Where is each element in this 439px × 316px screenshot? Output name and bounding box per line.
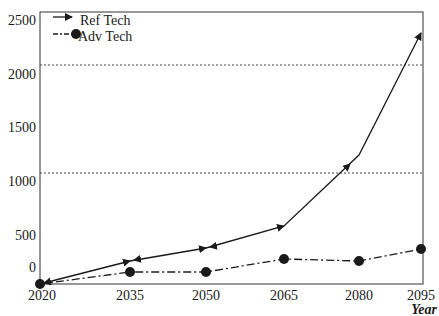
y-tick-500: 500: [15, 228, 36, 243]
legend: Ref Tech Adv Tech: [53, 13, 132, 44]
adv-point-2095: [416, 244, 426, 254]
series-adv-tech: [35, 244, 426, 289]
x-axis-label: Year: [411, 302, 437, 316]
legend-adv-tech-label: Adv Tech: [78, 29, 132, 44]
adv-point-2080: [354, 256, 364, 266]
x-tick-2080: 2080: [345, 288, 373, 303]
y-tick-2500: 2500: [8, 13, 36, 28]
adv-point-2065: [279, 254, 289, 264]
x-tick-2020: 2020: [28, 288, 56, 303]
x-tick-2050: 2050: [192, 288, 220, 303]
adv-point-2050: [201, 267, 211, 277]
y-tick-1000: 1000: [8, 174, 36, 189]
x-tick-2065: 2065: [270, 288, 298, 303]
y-tick-1500: 1500: [8, 120, 36, 135]
series-ref-tech: [40, 33, 421, 284]
legend-ref-tech-label: Ref Tech: [80, 13, 130, 28]
x-tick-2095: 2095: [407, 288, 435, 303]
y-tick-2000: 2000: [8, 67, 36, 82]
x-tick-2035: 2035: [116, 288, 144, 303]
plot-frame: [40, 12, 423, 284]
adv-point-2035: [125, 267, 135, 277]
y-tick-0: 0: [29, 260, 36, 275]
line-chart: 2500 2000 1500 1000 500 0 2020 2035 2050…: [0, 0, 439, 316]
